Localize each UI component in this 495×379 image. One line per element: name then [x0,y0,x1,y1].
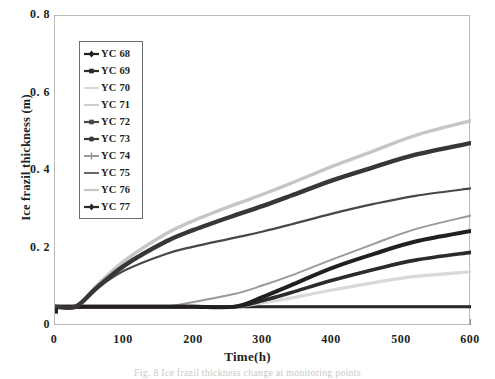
legend-label: YC 75 [101,167,130,178]
legend-swatch-icon [83,98,100,112]
x-tick-label-5: 500 [371,332,431,347]
legend-swatch-icon [83,47,100,61]
legend-label: YC 69 [101,65,130,76]
legend-swatch-icon [83,183,100,197]
x-tick-label-4: 400 [301,332,361,347]
legend-label: YC 77 [101,201,130,212]
x-tick-label-0: 0 [24,332,84,347]
origin-marker [55,309,58,314]
legend-swatch-icon [83,64,100,78]
legend-swatch-icon [83,149,100,163]
y-axis-title: Ice frazil thickness (m) [19,58,34,258]
legend-item-yc-77[interactable]: YC 77 [82,198,140,215]
legend-item-yc-69[interactable]: YC 69 [82,62,140,79]
legend-item-yc-68[interactable]: YC 68 [82,45,140,62]
legend-swatch-icon [83,200,100,214]
legend-item-yc-73[interactable]: YC 73 [82,130,140,147]
figure-caption: Fig. 8 Ice frazil thickness change at mo… [0,367,495,378]
legend-item-yc-76[interactable]: YC 76 [82,181,140,198]
legend-item-yc-71[interactable]: YC 71 [82,96,140,113]
legend-label: YC 73 [101,133,130,144]
legend-item-yc-70[interactable]: YC 70 [82,79,140,96]
legend-swatch-icon [83,115,100,129]
y-tick-label-0: 0 [4,317,50,332]
x-tick-label-2: 200 [163,332,223,347]
legend-label: YC 76 [101,184,130,195]
legend-item-yc-72[interactable]: YC 72 [82,113,140,130]
legend-item-yc-74[interactable]: YC 74 [82,147,140,164]
chart-legend: YC 68YC 69YC 70YC 71YC 72YC 73YC 74YC 75… [79,41,143,219]
legend-swatch-icon [83,166,100,180]
legend-swatch-icon [83,132,100,146]
x-tick-label-6: 600 [440,332,495,347]
x-tick-label-3: 300 [232,332,292,347]
legend-label: YC 71 [101,99,130,110]
figure-container: 0 0. 2 0. 4 0. 6 0. 8 0 100 200 300 400 … [0,0,495,379]
legend-label: YC 72 [101,116,130,127]
legend-item-yc-75[interactable]: YC 75 [82,164,140,181]
x-tick-label-1: 100 [93,332,153,347]
x-axis-title: Time(h) [0,349,495,365]
legend-label: YC 70 [101,82,130,93]
legend-label: YC 68 [101,48,130,59]
legend-label: YC 74 [101,150,130,161]
legend-swatch-icon [83,81,100,95]
y-tick-label-4: 0. 8 [4,7,50,22]
